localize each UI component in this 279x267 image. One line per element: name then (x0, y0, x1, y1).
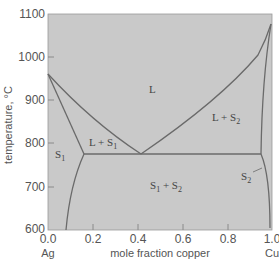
svg-text:700: 700 (25, 180, 45, 194)
svg-text:800: 800 (25, 136, 45, 150)
ag-label: Ag (41, 247, 54, 259)
svg-text:0.0: 0.0 (40, 232, 57, 246)
x-axis-title: mole fraction copper (110, 247, 210, 259)
svg-text:0.4: 0.4 (130, 232, 147, 246)
svg-text:900: 900 (25, 93, 45, 107)
region-L: L (149, 83, 156, 95)
svg-text:0.8: 0.8 (220, 232, 237, 246)
svg-text:1100: 1100 (19, 7, 45, 21)
svg-text:1000: 1000 (18, 50, 45, 64)
svg-text:0.6: 0.6 (175, 232, 192, 246)
cu-label: Cu (265, 247, 279, 259)
y-tick-labels: 1100 1000 900 800 700 600 (18, 7, 45, 236)
svg-text:1.0: 1.0 (264, 232, 279, 246)
y-axis-title: temperature, °C (2, 86, 14, 164)
svg-text:0.2: 0.2 (85, 232, 102, 246)
phase-diagram: L L + S1 L + S2 S1 S1 + S2 S2 1100 1000 … (0, 0, 279, 267)
x-tick-labels: 0.0 0.2 0.4 0.6 0.8 1.0 (40, 232, 279, 246)
